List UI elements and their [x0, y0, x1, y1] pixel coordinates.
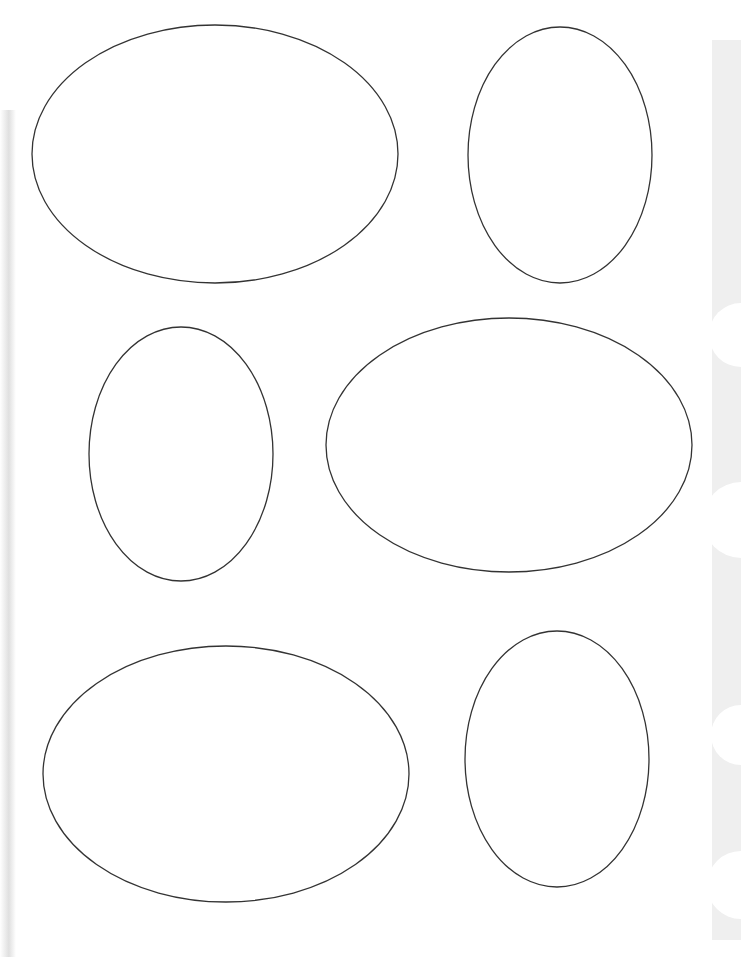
oval-2 — [468, 27, 652, 283]
oval-template-canvas — [0, 0, 741, 957]
oval-3 — [89, 327, 273, 581]
document-page — [0, 0, 741, 957]
oval-6 — [465, 631, 649, 887]
oval-1 — [32, 25, 398, 283]
oval-5 — [43, 646, 409, 902]
oval-4 — [326, 318, 692, 572]
